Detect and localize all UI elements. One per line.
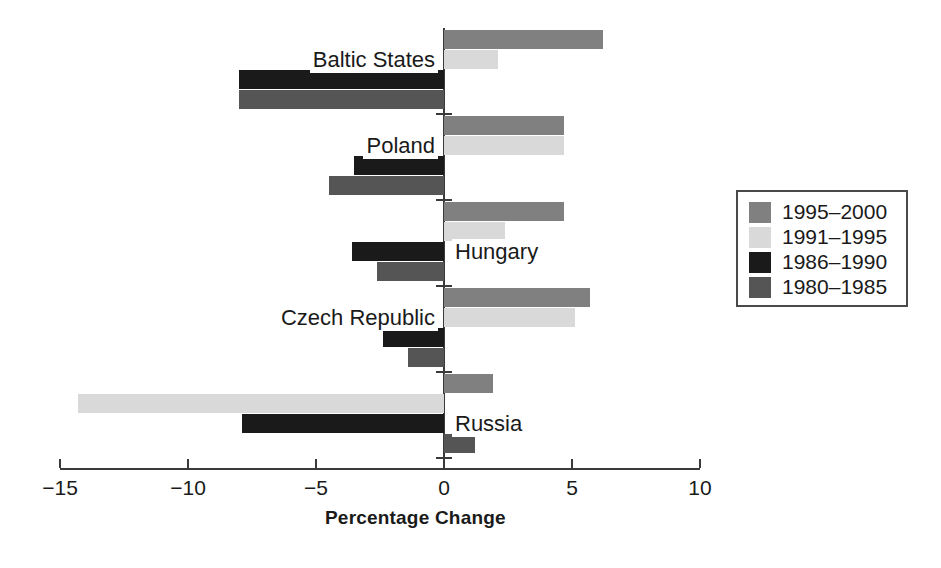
x-axis-line: [60, 468, 700, 470]
x-axis-tick: [315, 459, 317, 468]
plot-area: −15−10−50510Percentage ChangeBaltic Stat…: [0, 0, 941, 568]
bar: [408, 348, 444, 367]
group-separator-tick: [436, 457, 452, 459]
x-axis-tick: [187, 459, 189, 468]
bar: [239, 90, 444, 109]
bar: [444, 116, 564, 135]
legend-swatch: [749, 227, 771, 248]
category-label: Baltic States: [310, 47, 438, 73]
bar: [242, 414, 444, 433]
group-separator-tick: [436, 285, 452, 287]
bar: [352, 242, 444, 261]
bar: [444, 308, 575, 327]
bar: [444, 202, 564, 221]
group-separator-tick: [436, 113, 452, 115]
x-tick-label: −10: [148, 476, 228, 500]
legend-item[interactable]: 1991–1995: [749, 225, 887, 249]
bar-chart: −15−10−50510Percentage ChangeBaltic Stat…: [0, 0, 941, 568]
legend-label: 1991–1995: [782, 225, 887, 249]
x-axis-tick: [443, 459, 445, 468]
legend-swatch: [749, 252, 771, 273]
legend-swatch: [749, 277, 771, 298]
legend-label: 1995–2000: [782, 200, 887, 224]
x-tick-label: −5: [276, 476, 356, 500]
legend-swatch: [749, 202, 771, 223]
legend-label: 1980–1985: [782, 275, 887, 299]
bar: [444, 136, 564, 155]
bar: [78, 394, 444, 413]
legend-item[interactable]: 1986–1990: [749, 250, 887, 274]
category-label: Poland: [363, 133, 438, 159]
bar: [444, 374, 493, 393]
bar: [377, 262, 444, 281]
x-axis-tick: [59, 459, 61, 468]
x-axis-title: Percentage Change: [325, 507, 506, 529]
x-tick-label: 10: [660, 476, 740, 500]
bar: [444, 30, 603, 49]
category-label: Czech Republic: [278, 305, 438, 331]
legend-item[interactable]: 1980–1985: [749, 275, 887, 299]
x-tick-label: 5: [532, 476, 612, 500]
group-separator-tick: [436, 199, 452, 201]
legend-label: 1986–1990: [782, 250, 887, 274]
group-separator-tick: [436, 371, 452, 373]
x-tick-label: 0: [404, 476, 484, 500]
category-label: Russia: [452, 411, 525, 437]
x-axis-tick: [699, 459, 701, 468]
bar: [444, 288, 590, 307]
bar: [329, 176, 444, 195]
x-axis-tick: [571, 459, 573, 468]
legend-item[interactable]: 1995–2000: [749, 200, 887, 224]
x-tick-label: −15: [20, 476, 100, 500]
category-label: Hungary: [452, 239, 541, 265]
bar: [444, 50, 498, 69]
